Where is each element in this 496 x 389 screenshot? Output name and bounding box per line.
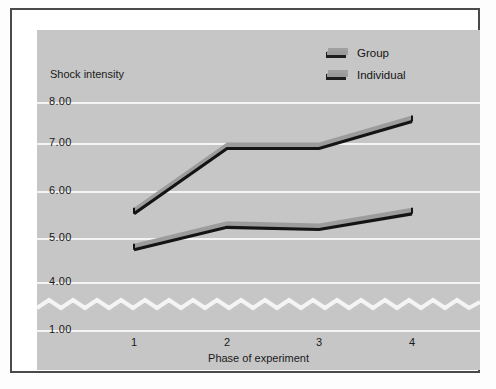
chart-legend: Group Individual: [326, 42, 456, 86]
legend-label-individual: Individual: [357, 69, 406, 81]
series-group-edge: [134, 122, 412, 214]
y-tick-label-8: 8.00: [49, 95, 97, 107]
y-tick-label-4: 4.00: [49, 275, 97, 287]
x-tick-label-4: 4: [399, 336, 425, 348]
y-axis-title: Shock intensity: [50, 68, 124, 80]
series-group: [134, 116, 412, 214]
legend-label-group: Group: [357, 47, 389, 59]
y-tick-label-5: 5.00: [49, 231, 97, 243]
y-tick-label-1: 1.00: [49, 323, 97, 335]
series-group-topface: [134, 116, 412, 214]
y-tick-label-7: 7.00: [49, 136, 97, 148]
x-tick-label-3: 3: [306, 336, 332, 348]
figure-root: Shock intensity 8.00 7.00 6.00 5.00 4.00…: [0, 0, 496, 389]
series-individual: [134, 208, 412, 250]
figure-frame: Shock intensity 8.00 7.00 6.00 5.00 4.00…: [10, 8, 480, 373]
y-tick-label-6: 6.00: [49, 184, 97, 196]
legend-item-group: Group: [326, 42, 456, 64]
legend-item-individual: Individual: [326, 64, 456, 86]
x-tick-label-2: 2: [214, 336, 240, 348]
axis-break-zigzag: [37, 300, 480, 308]
ribbon-swatch-icon: [326, 48, 348, 59]
x-axis-title: Phase of experiment: [37, 352, 480, 364]
plot-area: Shock intensity 8.00 7.00 6.00 5.00 4.00…: [37, 30, 480, 370]
x-tick-label-1: 1: [121, 336, 147, 348]
ribbon-swatch-icon: [326, 70, 348, 81]
